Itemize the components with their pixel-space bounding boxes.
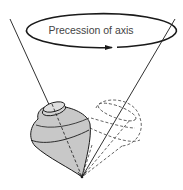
precession-diagram: Precession of axis [0,0,183,190]
ghost-top-dashed [82,100,141,177]
cone-right-line [82,19,175,177]
spinning-top [31,100,91,177]
precession-label: Precession of axis [48,24,133,36]
arrowhead-icon [105,45,113,50]
pivot-point [81,176,84,179]
